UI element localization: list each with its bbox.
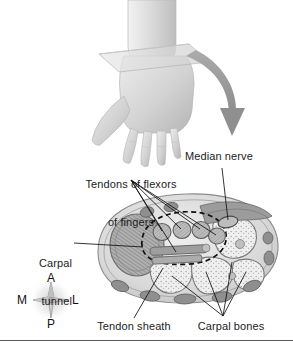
- label-median-nerve: Median nerve: [185, 150, 289, 163]
- compass-label-medial: M: [17, 293, 27, 307]
- hand-illustration: [92, 0, 245, 167]
- label-tendons-of-flexors-line2: of fingers: [73, 216, 189, 229]
- compass-label-lateral: L: [72, 293, 79, 307]
- label-carpal-bones: Carpal bones: [185, 320, 277, 333]
- bottom-rule: [0, 340, 293, 341]
- label-carpal-tunnel: Carpal tunnel: [8, 232, 72, 332]
- compass-label-anterior: A: [47, 271, 55, 285]
- carpal-tunnel-figure: Tendons of flexors of fingers Median ner…: [0, 0, 293, 343]
- label-tendons-of-flexors: Tendons of flexors of fingers: [73, 153, 189, 253]
- label-tendons-of-flexors-line1: Tendons of flexors: [73, 178, 189, 191]
- label-tendon-sheath: Tendon sheath: [86, 320, 182, 333]
- label-carpal-tunnel-line1: Carpal: [8, 257, 72, 270]
- compass-label-posterior: P: [47, 317, 55, 331]
